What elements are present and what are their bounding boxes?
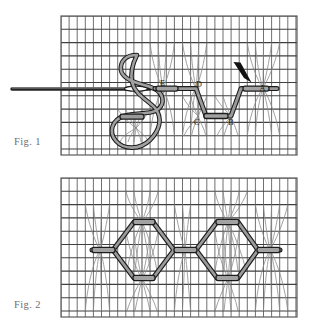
bar-stitch-CB <box>204 114 228 119</box>
bar-stitch-bottom-node-1 <box>133 275 155 280</box>
point-label-A: A <box>260 84 266 93</box>
point-label-C: C <box>194 118 200 127</box>
bar-stitch-bottom-node-2 <box>216 275 239 280</box>
bar-stitch-right-node <box>257 247 280 252</box>
stitch-diagram-svg: A B C D E <box>0 0 311 328</box>
loop-bar-stitch <box>120 114 144 119</box>
bar-stitch-top-node-1 <box>133 219 155 224</box>
point-label-E: E <box>160 79 165 88</box>
caption-fig2: Fig. 2 <box>14 299 41 310</box>
bar-stitch-mid-node <box>174 247 197 252</box>
bar-stitch-left-node <box>92 247 115 252</box>
panel-fig1: A B C D E <box>12 16 297 155</box>
diagram-figure: A B C D E <box>0 0 311 328</box>
point-label-B: B <box>228 118 234 127</box>
caption-fig1: Fig. 1 <box>14 136 41 147</box>
loop-bar-stitch-body <box>120 114 144 119</box>
panel-fig2 <box>61 178 297 317</box>
bar-stitch-CB-body <box>204 114 228 119</box>
point-label-D: D <box>196 80 202 89</box>
bar-stitch-top-node-2 <box>216 219 239 224</box>
